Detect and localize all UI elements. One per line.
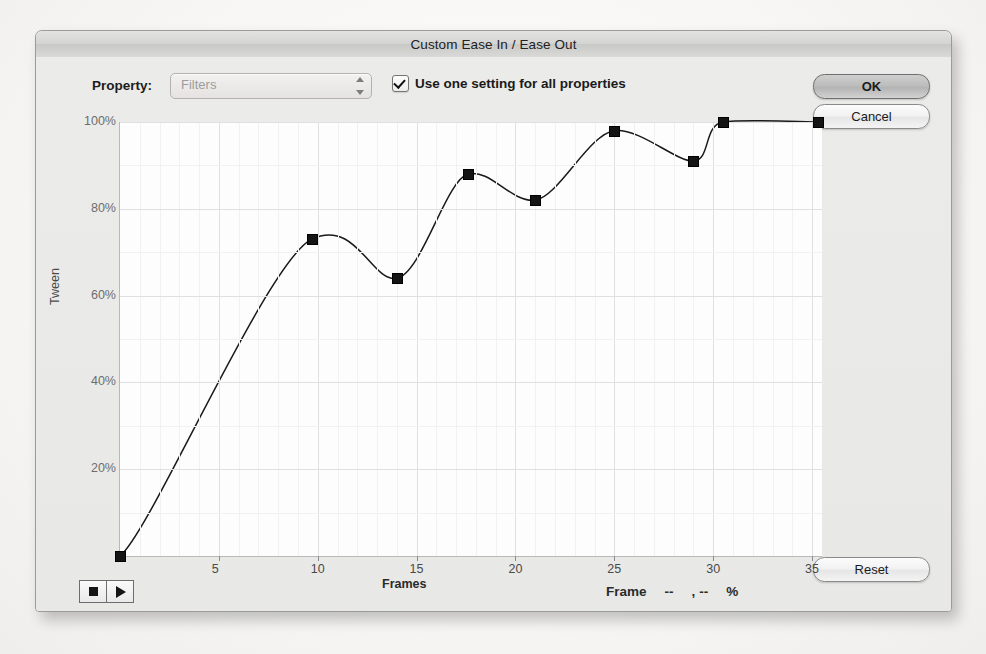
frame-readout-label: Frame [606,584,647,599]
curve-control-point[interactable] [530,195,541,206]
chart-x-tick-label: 30 [706,562,720,576]
dialog-title: Custom Ease In / Ease Out [410,37,576,52]
chart-gridline-horizontal [120,296,822,297]
chart-y-tick-label: 20% [91,461,116,475]
frame-readout-frame-value: -- [665,584,674,599]
curve-control-point[interactable] [307,234,318,245]
curve-control-point[interactable] [688,156,699,167]
frame-readout: Frame -- , -- % [606,584,738,599]
chart-y-tick-label: 100% [84,114,116,128]
play-triangle-icon [116,586,126,598]
chart-gridline-horizontal [120,469,822,470]
chart-y-tick-label: 60% [91,288,116,302]
chart-x-tick-mark [417,556,418,561]
frame-readout-percent-value: -- [699,584,708,599]
use-one-setting-checkbox-row[interactable]: Use one setting for all properties [392,75,626,92]
curve-control-point[interactable] [392,273,403,284]
chart-gridline-horizontal [120,339,822,340]
chart-x-tick-mark [219,556,220,561]
custom-ease-dialog: Custom Ease In / Ease Out Property: Filt… [35,30,952,612]
frame-readout-percent-sign: % [726,584,738,599]
stop-button[interactable] [79,580,107,603]
chart-gridline-horizontal [120,209,822,210]
ok-button[interactable]: OK [813,74,930,99]
frame-readout-comma: , [692,584,696,599]
chart-gridline-horizontal [120,165,822,166]
play-button[interactable] [106,580,134,603]
chart-y-tick-label: 40% [91,374,116,388]
chart-x-tick-label: 5 [212,562,219,576]
cancel-button[interactable]: Cancel [813,104,930,129]
chart-gridline-horizontal [120,252,822,253]
chart-x-tick-mark [614,556,615,561]
chart-gridline-horizontal [120,426,822,427]
property-label: Property: [92,78,152,93]
curve-control-point[interactable] [609,126,620,137]
curve-control-point[interactable] [463,169,474,180]
chart-x-tick-label: 10 [311,562,325,576]
chart-x-tick-label: 20 [508,562,522,576]
property-dropdown-value: Filters [181,77,216,92]
use-one-setting-label: Use one setting for all properties [415,76,626,91]
chart-x-tick-mark [318,556,319,561]
chart-gridline-horizontal [120,513,822,514]
curve-control-point[interactable] [115,551,126,562]
stop-square-icon [89,587,98,596]
property-dropdown[interactable]: Filters [170,73,372,99]
curve-control-point[interactable] [813,117,824,128]
chart-x-axis-label: Frames [382,577,426,591]
chart-x-tick-mark [812,556,813,561]
transport-controls[interactable] [79,580,133,603]
chart-y-tick-label: 80% [91,201,116,215]
chart-x-tick-mark [515,556,516,561]
chart-x-tick-label: 25 [607,562,621,576]
chart-x-tick-label: 35 [805,562,819,576]
reset-button[interactable]: Reset [813,557,930,582]
dialog-body: Property: Filters Use one setting for al… [36,57,951,611]
chart-x-tick-mark [713,556,714,561]
dialog-titlebar: Custom Ease In / Ease Out [36,31,951,58]
chart-gridline-horizontal [120,382,822,383]
curve-control-point[interactable] [718,117,729,128]
stepper-arrows-icon [355,77,364,95]
chart-x-tick-label: 15 [410,562,424,576]
use-one-setting-checkbox[interactable] [392,75,409,92]
ease-curve-chart[interactable]: Tween 20%40%60%80%100%5101520253035 Fram… [52,119,822,564]
chart-plot-area[interactable]: 20%40%60%80%100%5101520253035 [119,122,822,557]
chart-gridline-horizontal [120,122,822,123]
chart-y-axis-label: Tween [48,268,62,305]
